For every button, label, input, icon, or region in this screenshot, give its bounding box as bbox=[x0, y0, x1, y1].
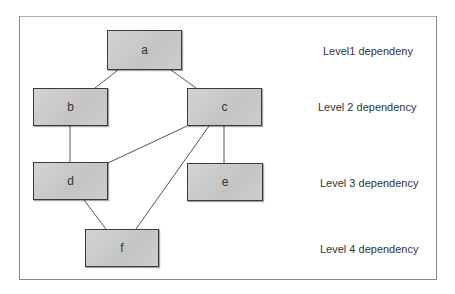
edge-a-c bbox=[171, 70, 196, 88]
level-1-label: Level1 dependeny bbox=[323, 45, 413, 57]
node-e: e bbox=[187, 163, 263, 201]
node-b: b bbox=[33, 88, 108, 126]
node-e-label: e bbox=[222, 175, 229, 189]
node-d-label: d bbox=[67, 174, 74, 188]
node-f-label: f bbox=[120, 241, 123, 255]
node-a: a bbox=[107, 30, 182, 70]
edge-c-d bbox=[108, 126, 187, 163]
level-4-label: Level 4 dependency bbox=[320, 243, 418, 255]
node-b-label: b bbox=[67, 100, 74, 114]
edge-a-b bbox=[95, 70, 118, 88]
node-c-label: c bbox=[222, 100, 228, 114]
node-d: d bbox=[33, 162, 108, 200]
node-c: c bbox=[187, 88, 262, 126]
level-3-label: Level 3 dependency bbox=[320, 177, 418, 189]
node-a-label: a bbox=[141, 43, 148, 57]
edge-d-f bbox=[84, 200, 106, 229]
node-f: f bbox=[85, 229, 159, 267]
level-2-label: Level 2 dependency bbox=[318, 101, 416, 113]
